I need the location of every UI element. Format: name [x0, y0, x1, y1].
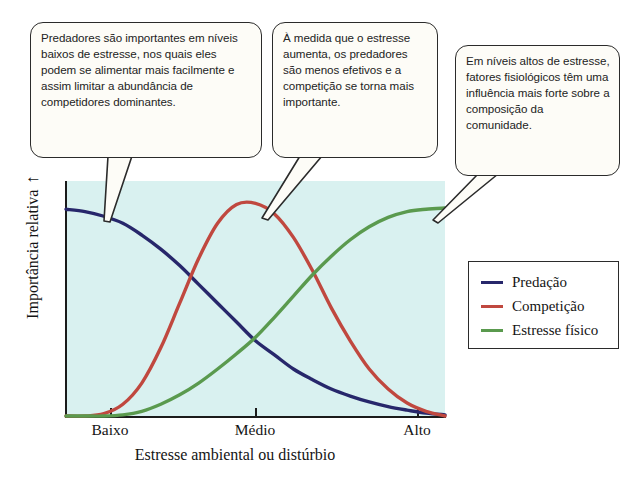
x-axis-tick-medio [255, 408, 257, 418]
legend-label-competicao: Competição [512, 298, 584, 315]
legend-item-estresse-fisico: Estresse físico [481, 318, 618, 342]
y-axis-title-text: Importância relativa [24, 190, 41, 319]
ecology-importance-chart-figure: Predadores são importantes em níveis bai… [0, 0, 644, 480]
callout-competition-text: À medida que o estresse aumenta, os pred… [283, 31, 414, 108]
callout-competition: À medida que o estresse aumenta, os pred… [272, 22, 438, 158]
x-tick-label-medio: Médio [200, 421, 310, 439]
legend: Predação Competição Estresse físico [468, 261, 619, 349]
y-axis-line [65, 181, 67, 418]
x-axis-tick-alto [417, 408, 419, 418]
legend-item-competicao: Competição [481, 294, 618, 318]
y-axis-title: Importância relativa↑ [24, 142, 42, 352]
up-arrow-icon: ↑ [24, 175, 41, 184]
callout-physical-stress: Em níveis altos de estresse, fatores fis… [455, 45, 620, 176]
legend-swatch-estresse-fisico [481, 329, 503, 332]
callout-predation-text: Predadores são importantes em níveis bai… [41, 31, 238, 108]
x-tick-label-baixo: Baixo [55, 421, 165, 439]
callout-physical-stress-text: Em níveis altos de estresse, fatores fis… [466, 54, 610, 131]
legend-item-predacao: Predação [481, 270, 618, 294]
legend-swatch-predacao [481, 281, 503, 284]
legend-label-estresse-fisico: Estresse físico [512, 322, 598, 339]
x-tick-label-alto: Alto [362, 421, 472, 439]
legend-label-predacao: Predação [512, 274, 567, 291]
x-axis-title-text: Estresse ambiental ou distúrbio [135, 446, 335, 463]
legend-swatch-competicao [481, 305, 503, 308]
plot-area [66, 181, 445, 417]
x-axis-title: Estresse ambiental ou distúrbio [0, 446, 470, 464]
callout-predation: Predadores são importantes em níveis bai… [30, 22, 262, 158]
x-axis-tick-baixo [110, 408, 112, 418]
